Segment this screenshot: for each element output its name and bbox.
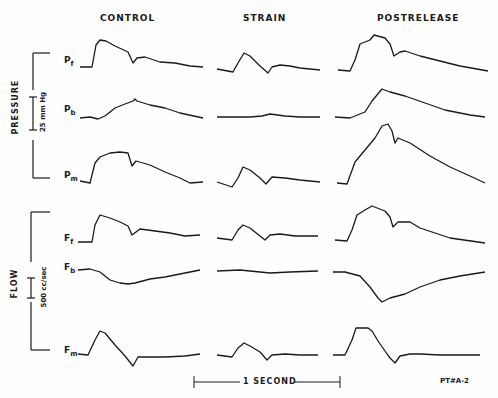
trace-plot (0, 0, 498, 398)
trace-label-pb: Pb (64, 104, 76, 117)
trace-pf-postrelease (338, 35, 488, 71)
trace-pb-control (80, 99, 203, 119)
trace-label-ff: Ff (64, 233, 73, 246)
trace-ff-postrelease (335, 206, 485, 243)
trace-label-fb: Fb (64, 262, 75, 275)
trace-pm-control (80, 152, 203, 183)
trace-label-pm: Pm (64, 170, 78, 183)
trace-pb-postrelease (335, 89, 485, 118)
trace-label-pf: Pf (64, 55, 74, 68)
flow-group-label: FLOW (10, 268, 19, 300)
flow-scale-label: 500 cc/sec (40, 258, 48, 316)
pressure-group-label: PRESSURE (11, 85, 20, 135)
trace-pm-postrelease (337, 124, 485, 184)
trace-pm-strain (217, 167, 320, 187)
time-scale-label: 1 SECOND (243, 377, 297, 386)
waveform-traces (78, 35, 488, 366)
trace-fm-postrelease (333, 328, 480, 363)
trace-pf-strain (217, 53, 320, 73)
pressure-scale-label: 25 mm Hg (39, 92, 47, 132)
trace-label-fm: Fm (64, 345, 77, 358)
trace-fm-control (78, 331, 200, 366)
trace-pf-control (80, 40, 203, 67)
waveform-figure: CONTROL STRAIN POSTRELEASE (0, 0, 498, 398)
trace-pb-strain (217, 114, 320, 117)
patient-id-label: PT#A-2 (440, 377, 469, 385)
trace-fb-control (78, 269, 200, 284)
trace-fb-postrelease (333, 272, 485, 302)
trace-ff-strain (217, 225, 318, 240)
trace-ff-control (78, 215, 200, 242)
trace-fm-strain (217, 343, 318, 360)
trace-fb-strain (217, 270, 318, 273)
